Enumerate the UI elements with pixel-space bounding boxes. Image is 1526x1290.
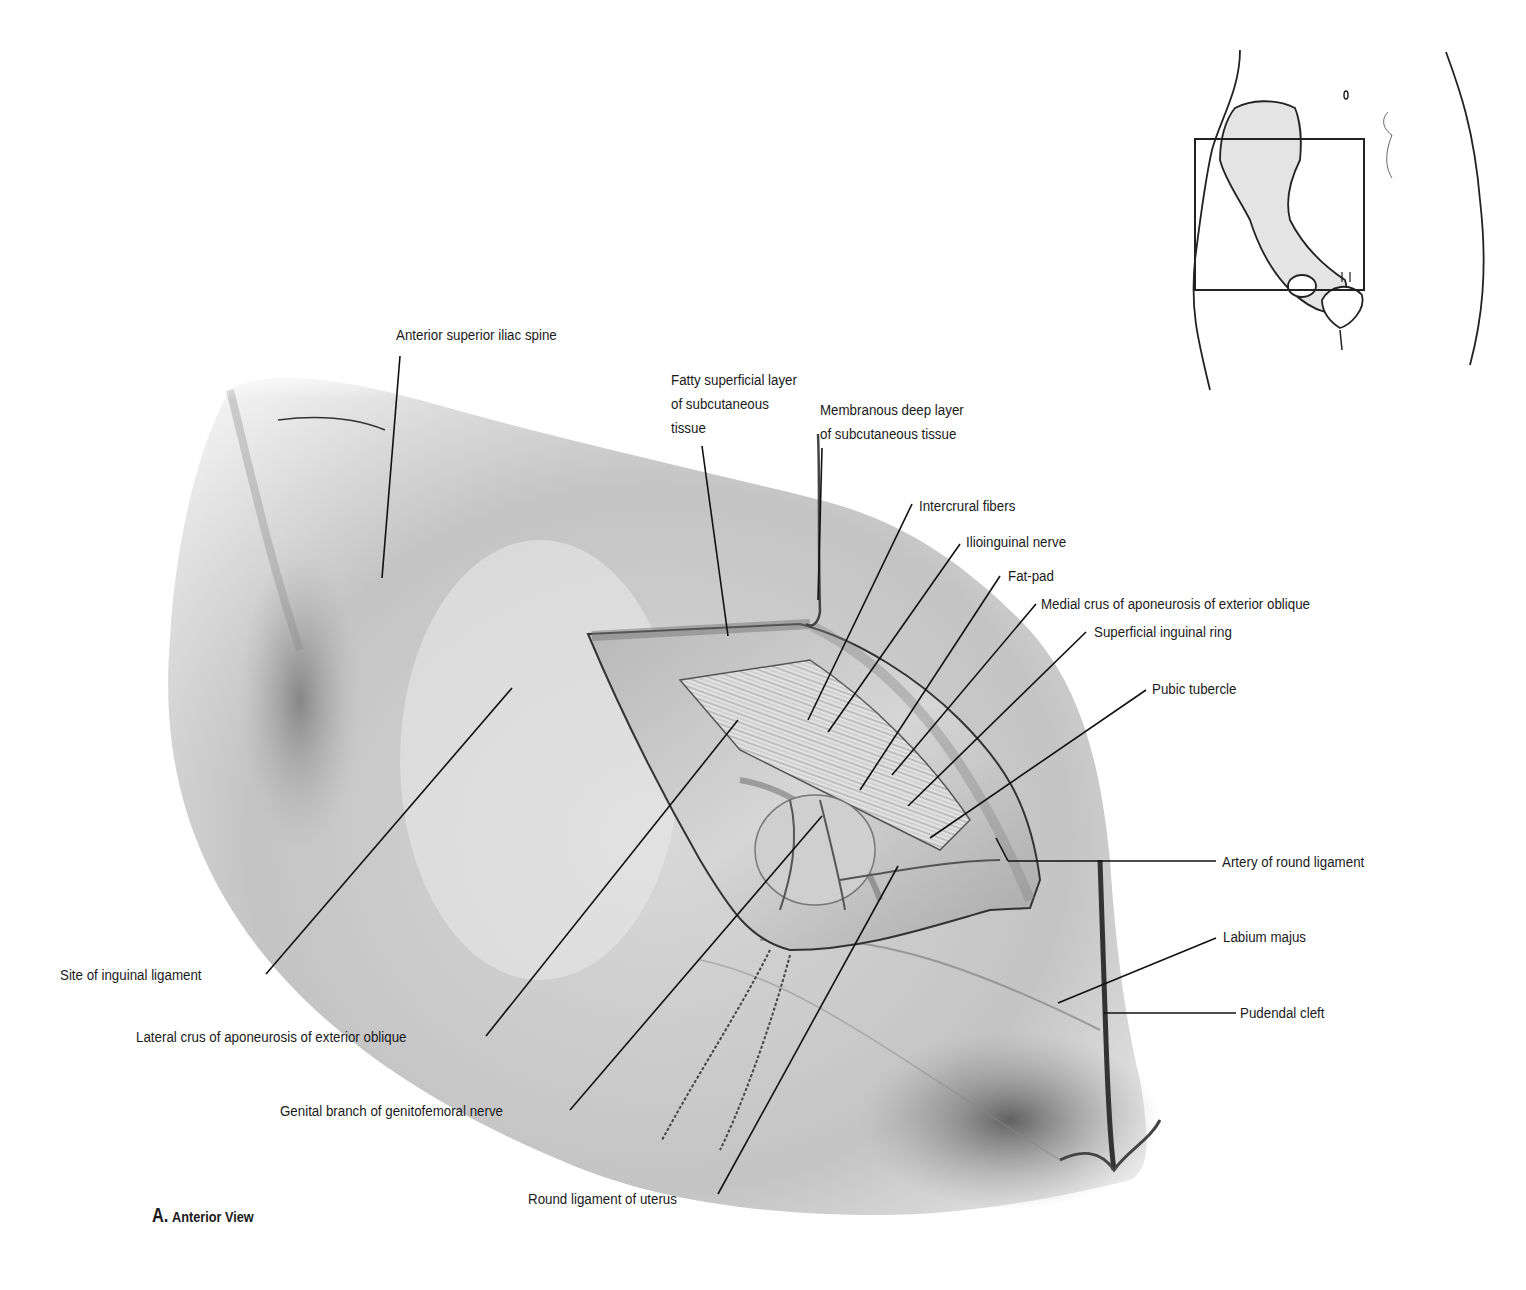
caption-letter: A. — [152, 1204, 168, 1226]
label-artery-of-round-ligament: Artery of round ligament — [1222, 852, 1364, 871]
label-membranous-deep-layer-line2: of subcutaneous tissue — [820, 424, 956, 443]
anatomy-illustration — [0, 0, 1526, 1290]
label-membranous-deep-layer-line1: Membranous deep layer — [820, 400, 964, 419]
label-anterior-superior-iliac-spine: Anterior superior iliac spine — [396, 325, 557, 344]
label-site-of-inguinal-ligament: Site of inguinal ligament — [60, 965, 202, 984]
label-medial-crus: Medial crus of aponeurosis of exterior o… — [1041, 594, 1310, 613]
label-pudendal-cleft: Pudendal cleft — [1240, 1003, 1324, 1022]
label-pubic-tubercle: Pubic tubercle — [1152, 679, 1236, 698]
caption-text: Anterior View — [172, 1208, 254, 1225]
label-superficial-inguinal-ring: Superficial inguinal ring — [1094, 622, 1232, 641]
label-fatty-superficial-layer-line1: Fatty superficial layer — [671, 370, 797, 389]
label-lateral-crus: Lateral crus of aponeurosis of exterior … — [136, 1027, 406, 1046]
label-labium-majus: Labium majus — [1223, 927, 1306, 946]
figure-caption: A. Anterior View — [152, 1204, 254, 1227]
orientation-inset — [1193, 50, 1483, 390]
label-fat-pad: Fat-pad — [1008, 566, 1054, 585]
label-round-ligament-of-uterus: Round ligament of uterus — [528, 1189, 677, 1208]
label-intercrural-fibers: Intercrural fibers — [919, 496, 1015, 515]
label-fatty-superficial-layer-line2: of subcutaneous — [671, 394, 769, 413]
label-fatty-superficial-layer-line3: tissue — [671, 418, 706, 437]
label-ilioinguinal-nerve: Ilioinguinal nerve — [966, 532, 1066, 551]
label-genital-branch-genitofemoral-nerve: Genital branch of genitofemoral nerve — [280, 1101, 503, 1120]
